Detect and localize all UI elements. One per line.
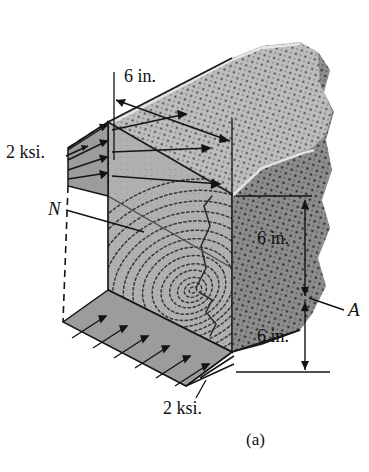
leader-stress-bottom [196, 380, 206, 398]
label-normal-force: N [48, 198, 61, 220]
stress-label-bottom: 2 ksi. [163, 398, 202, 419]
stress-label-top: 2 ksi. [6, 142, 45, 163]
dimension-label-right-upper: 6 in. [257, 228, 289, 249]
dimension-label-right-lower: 6 in. [257, 326, 289, 347]
figure-caption: (a) [246, 430, 265, 450]
stress-block-top [66, 122, 108, 196]
label-area: A [348, 299, 360, 321]
dimension-label-top-width: 6 in. [124, 66, 156, 87]
